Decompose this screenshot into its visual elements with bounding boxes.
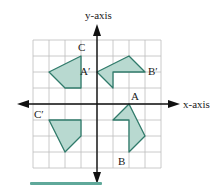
- vertex-label: B: [118, 155, 125, 167]
- vertex-label: A′: [80, 65, 90, 77]
- coordinate-plane: x-axis y-axis ABCA′B′C′: [0, 0, 222, 189]
- x-axis-label: x-axis: [183, 98, 210, 110]
- y-axis-label: y-axis: [85, 9, 112, 21]
- figure-q4: [113, 104, 145, 152]
- vertex-label: A: [131, 90, 139, 102]
- y-axis-up-arrow-icon: [93, 24, 101, 36]
- figure-q1: [97, 56, 145, 88]
- vertex-label: C: [78, 41, 85, 53]
- x-axis-left-arrow-icon: [17, 100, 29, 108]
- x-axis-right-arrow-icon: [168, 100, 180, 108]
- decorative-bar: [30, 182, 102, 185]
- vertex-label: B′: [148, 65, 158, 77]
- axes: x-axis y-axis: [17, 9, 210, 184]
- vertex-label: C′: [34, 108, 44, 120]
